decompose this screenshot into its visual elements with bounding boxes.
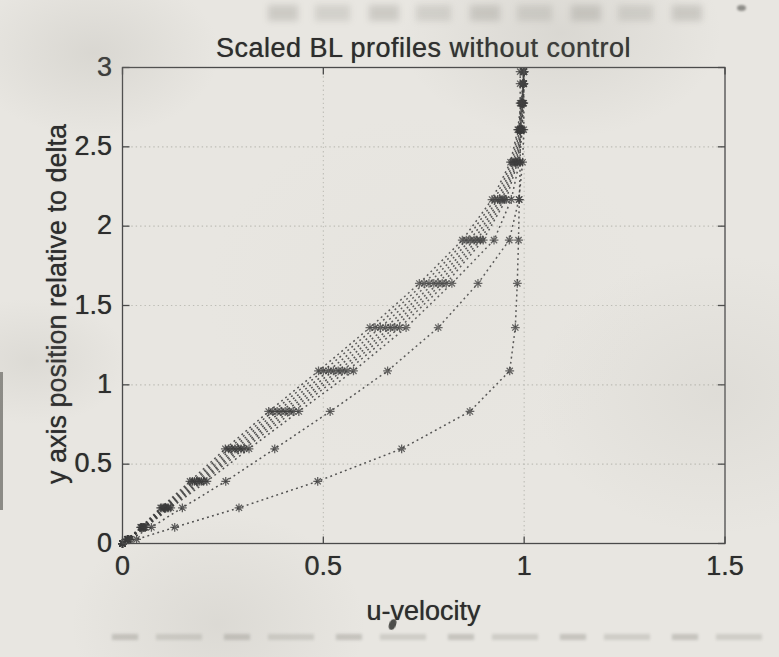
chart-title: Scaled BL profiles without control (122, 33, 725, 64)
profile-markers (118, 67, 528, 548)
profile-markers (118, 67, 528, 548)
profile-markers (118, 67, 528, 548)
profile-markers (118, 67, 528, 548)
y-tick-label: 0 (32, 528, 112, 559)
y-tick-label: 2.5 (32, 131, 112, 162)
scanned-page: Scaled BL profiles without control u-vel… (0, 0, 779, 657)
profile-markers (118, 67, 524, 548)
profile-markers (118, 67, 528, 548)
y-tick-label: 1.5 (32, 290, 112, 321)
profile-markers (118, 67, 528, 548)
x-tick-label: 0.5 (278, 551, 368, 582)
y-tick-label: 0.5 (32, 448, 112, 479)
y-tick-label: 2 (32, 210, 112, 241)
profile-markers (118, 67, 528, 548)
profile-markers (118, 67, 528, 548)
y-tick-label: 3 (32, 52, 112, 83)
profiles-group (118, 67, 528, 548)
profile-markers (118, 67, 528, 548)
x-tick-label: 1.5 (680, 551, 770, 582)
y-tick-label: 1 (32, 369, 112, 400)
profile-curve (123, 72, 521, 544)
x-axis-label: u-velocity (122, 596, 725, 627)
x-tick-label: 1 (479, 551, 569, 582)
